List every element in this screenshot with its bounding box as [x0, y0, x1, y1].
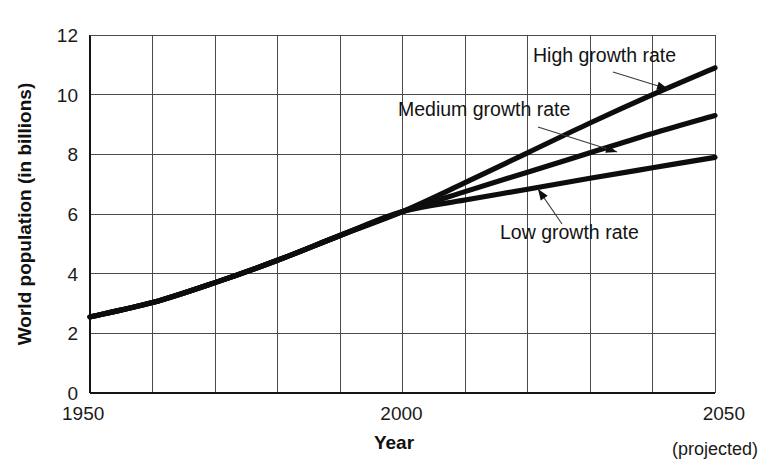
annotation-label: Medium growth rate [398, 98, 570, 120]
annotation-label: Low growth rate [500, 221, 639, 243]
x-axis-projection-note: (projected) [672, 439, 758, 459]
x-tick-label-2000: 2000 [380, 403, 422, 424]
annotation-label: High growth rate [533, 44, 676, 66]
chart-figure: 024681012 195020002050 (projected) Year … [0, 0, 780, 469]
y-tick-label-6: 6 [67, 204, 78, 225]
y-tick-label-2: 2 [67, 323, 78, 344]
x-axis-title: Year [374, 432, 415, 453]
x-tick-label-1950: 1950 [62, 403, 104, 424]
y-tick-label-10: 10 [57, 85, 78, 106]
y-tick-label-4: 4 [67, 264, 78, 285]
population-projection-chart: 024681012 195020002050 (projected) Year … [0, 0, 780, 469]
x-tick-label-2050: 2050 [703, 403, 745, 424]
y-tick-label-8: 8 [67, 144, 78, 165]
y-tick-label-12: 12 [57, 25, 78, 46]
chart-background [0, 0, 780, 469]
y-tick-label-0: 0 [67, 383, 78, 404]
y-axis-title: World population (in billions) [14, 83, 35, 345]
